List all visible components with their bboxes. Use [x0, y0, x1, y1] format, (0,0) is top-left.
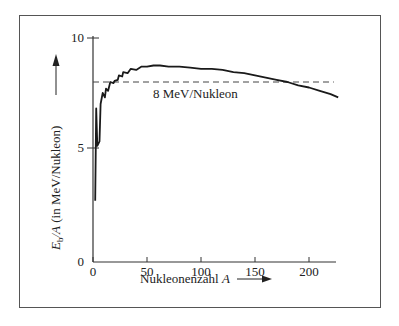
y-tick-label: 10 — [71, 30, 84, 45]
x-tick-label: 0 — [90, 264, 97, 279]
svg-text:Eb/A (in MeV/Nukleon): Eb/A (in MeV/Nukleon) — [48, 126, 65, 251]
x-axis-title: Nukleonenzahl A — [140, 271, 230, 286]
y-tick-label: 5 — [78, 140, 85, 155]
y-axis-arrow-icon — [53, 54, 60, 95]
x-axis-var: A — [221, 271, 230, 286]
annotation-8mev: 8 MeV/Nukleon — [153, 86, 238, 101]
x-tick-label: 150 — [245, 264, 265, 279]
y-axis-title: Eb/A (in MeV/Nukleon) — [48, 126, 65, 251]
x-tick-label: 200 — [299, 264, 319, 279]
binding-energy-chart: 050100150200 0510 8 MeV/Nukleon Nukleone… — [0, 0, 399, 326]
y-ticks: 0510 — [71, 30, 99, 269]
y-tick-label: 0 — [78, 254, 85, 269]
